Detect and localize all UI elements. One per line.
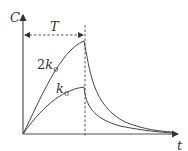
curve-2k0 [23,41,172,134]
t-interval-left-arrowhead [24,32,30,38]
curve-label-k0: k0 [56,81,69,98]
x-axis-label: t [177,138,183,151]
interval-label: T [50,19,60,34]
y-axis-label: C [10,10,20,25]
concentration-time-diagram: C t T 2k0 k0 [0,0,188,151]
curve-label-2k0: 2k0 [37,57,58,74]
